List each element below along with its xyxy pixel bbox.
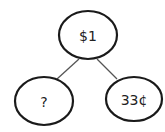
diagram-svg: $1 ? 33¢ bbox=[0, 0, 165, 132]
part-left-label: ? bbox=[40, 94, 47, 110]
edge-whole-to-right bbox=[97, 59, 117, 79]
edge-whole-to-left bbox=[57, 59, 79, 79]
node-part-left: ? bbox=[15, 77, 73, 125]
number-bond-diagram: $1 ? 33¢ bbox=[0, 0, 165, 132]
part-right-label: 33¢ bbox=[121, 92, 148, 108]
node-part-right: 33¢ bbox=[106, 77, 162, 121]
node-whole: $1 bbox=[59, 11, 117, 59]
whole-label: $1 bbox=[79, 28, 97, 44]
